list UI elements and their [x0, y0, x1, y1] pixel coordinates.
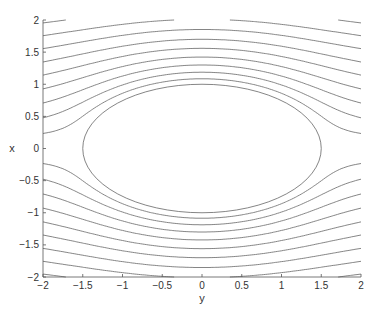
x-tick-label: 2	[358, 280, 364, 291]
x-tick-label: 1	[279, 280, 285, 291]
streamline	[43, 20, 361, 36]
y-tick-label: −0.5	[19, 175, 39, 186]
y-tick-label: 1.5	[25, 47, 39, 58]
x-tick-label: 1.5	[314, 280, 328, 291]
y-tick-label: 0	[33, 143, 39, 154]
y-tick-label: −1	[28, 207, 40, 218]
streamline	[43, 20, 361, 23]
x-tick-label: −1.5	[73, 280, 93, 291]
y-tick-label: 2	[33, 15, 39, 26]
streamline	[43, 39, 361, 62]
y-tick-label: −2	[28, 272, 40, 283]
elliptical-body	[83, 84, 322, 213]
y-tick-label: −1.5	[19, 239, 39, 250]
y-axis-label: x	[9, 142, 15, 154]
streamline-plot: −2−1.5−1−0.500.511.52−2−1.5−1−0.500.511.…	[0, 0, 373, 314]
x-tick-label: −0.5	[152, 280, 172, 291]
streamlines	[43, 20, 361, 277]
streamline	[43, 235, 361, 258]
x-tick-label: −1	[117, 280, 129, 291]
y-tick-label: 0.5	[25, 111, 39, 122]
x-axis-label: y	[199, 292, 205, 304]
x-tick-label: 0	[199, 280, 205, 291]
x-tick-label: 0.5	[235, 280, 249, 291]
y-tick-label: 1	[33, 79, 39, 90]
x-tick-label: −2	[37, 280, 49, 291]
